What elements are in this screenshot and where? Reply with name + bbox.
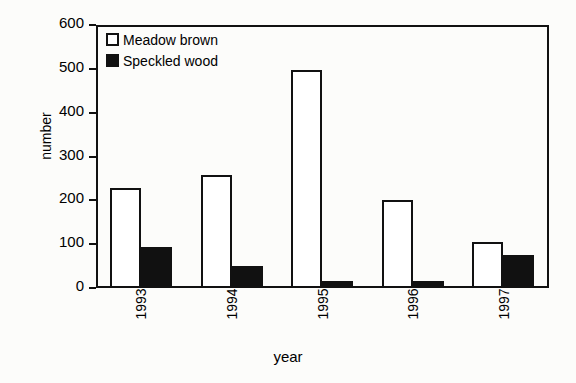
- y-axis-tick-mark: [89, 243, 96, 245]
- bar: [201, 175, 232, 288]
- y-axis-tick-mark: [89, 68, 96, 70]
- y-axis-tick-label: 500: [24, 58, 84, 75]
- bar: [110, 188, 141, 288]
- x-axis-tick-label: 1993: [109, 296, 173, 312]
- x-axis-tick-label: 1996: [381, 296, 445, 312]
- bar-chart-figure: number 0100200300400500600 Meadow brownS…: [0, 0, 576, 383]
- y-axis-tick-mark: [89, 112, 96, 114]
- legend-entry: Meadow brown: [106, 29, 218, 50]
- bar: [503, 255, 534, 288]
- bar: [472, 242, 503, 288]
- bar: [291, 70, 322, 288]
- x-axis-title: year: [0, 348, 576, 365]
- y-axis-tick-label: 200: [24, 189, 84, 206]
- y-axis-tick-mark: [89, 156, 96, 158]
- y-axis-tick-label: 300: [24, 146, 84, 163]
- y-axis-title: number: [38, 76, 54, 196]
- x-axis-tick-label: 1997: [471, 296, 535, 312]
- y-axis-tick-label: 400: [24, 102, 84, 119]
- y-axis-tick-label: 0: [24, 277, 84, 294]
- legend-swatch-icon: [106, 33, 119, 46]
- y-axis-tick-mark: [89, 24, 96, 26]
- x-axis-tick-label: 1994: [200, 296, 264, 312]
- bar: [413, 281, 444, 288]
- y-axis-tick-mark: [89, 199, 96, 201]
- legend-swatch-icon: [106, 54, 119, 67]
- bar: [232, 266, 263, 288]
- bar: [141, 247, 172, 288]
- legend-entry: Speckled wood: [106, 50, 218, 71]
- scanned-page-background: number 0100200300400500600 Meadow brownS…: [0, 0, 576, 383]
- legend-label: Speckled wood: [123, 54, 218, 68]
- legend-label: Meadow brown: [123, 33, 218, 47]
- y-axis-tick-label: 600: [24, 14, 84, 31]
- x-axis-tick-label: 1995: [290, 296, 354, 312]
- bar: [322, 281, 353, 288]
- bar: [382, 200, 413, 288]
- y-axis-tick-label: 100: [24, 233, 84, 250]
- chart-legend: Meadow brownSpeckled wood: [106, 29, 218, 71]
- y-axis-tick-mark: [89, 287, 96, 289]
- plot-area: 0100200300400500600 Meadow brownSpeckled…: [96, 25, 549, 288]
